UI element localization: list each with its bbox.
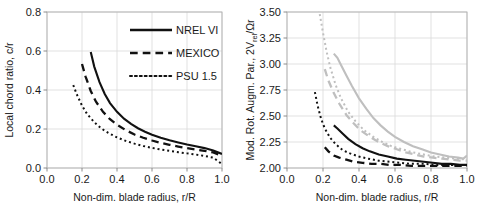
data-curves [315, 0, 467, 166]
x-tick-label: 0.4 [351, 173, 366, 185]
y-tick-label: 3.25 [260, 32, 281, 44]
x-tick-label: 0.6 [144, 173, 159, 185]
x-tick-label: 0.0 [39, 173, 54, 185]
y-tick-label: 2.25 [260, 136, 281, 148]
chart-panel-right: 0.00.20.40.60.81.02.002.252.502.753.003.… [245, 0, 491, 222]
y-tick-label: 0.0 [26, 162, 41, 174]
legend: NREL VIMEXICOPSU 1.5 [130, 24, 220, 82]
x-axis-label: Non-dim. blade radius, r/R [73, 191, 196, 203]
x-tick-label: 0.2 [74, 173, 89, 185]
gridlines [287, 12, 467, 168]
x-axis-label: Non-dim. blade radius, r/R [316, 191, 439, 203]
y-tick-label: 0.4 [26, 84, 41, 96]
y-tick-label: 2.75 [260, 84, 281, 96]
series-line [73, 85, 222, 164]
y-tick-label: 0.2 [26, 123, 41, 135]
series-line [91, 52, 222, 154]
x-tick-label: 0.2 [315, 173, 330, 185]
legend-label: PSU 1.5 [176, 70, 217, 82]
left-chart-svg: 0.00.20.40.60.81.00.00.20.40.60.8Non-dim… [0, 0, 246, 222]
x-tick-label: 0.8 [179, 173, 194, 185]
legend-label: NREL VI [176, 24, 218, 36]
chart-panel-left: 0.00.20.40.60.81.00.00.20.40.60.8Non-dim… [0, 0, 246, 222]
x-tick-label: 0.4 [109, 173, 124, 185]
legend-label: MEXICO [176, 47, 220, 59]
y-tick-label: 2.00 [260, 162, 281, 174]
y-axis-label: Local chord ratio, c/r [3, 42, 15, 138]
y-axis-label: Mod. Rot. Augm. Par., 2Vrel/Ωr [245, 19, 259, 161]
right-chart-svg: 0.00.20.40.60.81.02.002.252.502.753.003.… [245, 0, 491, 222]
y-tick-label: 3.00 [260, 58, 281, 70]
x-tick-label: 1.0 [214, 173, 229, 185]
y-tick-label: 3.50 [260, 6, 281, 18]
y-tick-label: 2.50 [260, 110, 281, 122]
x-tick-label: 0.8 [423, 173, 438, 185]
y-tick-label: 0.6 [26, 45, 41, 57]
data-curves [73, 52, 222, 164]
x-tick-label: 1.0 [459, 173, 474, 185]
y-tick-label: 0.8 [26, 6, 41, 18]
x-tick-label: 0.6 [387, 173, 402, 185]
x-tick-label: 0.0 [279, 173, 294, 185]
figure-two-panel-chart: 0.00.20.40.60.81.00.00.20.40.60.8Non-dim… [0, 0, 491, 222]
